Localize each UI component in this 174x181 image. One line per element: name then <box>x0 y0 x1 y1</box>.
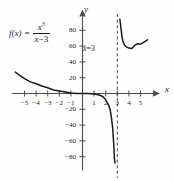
x-tick-label: −3 <box>44 100 51 107</box>
y-tick-label: 60 <box>58 43 76 50</box>
x-tick-label: 5 <box>139 100 143 107</box>
denominator-constant: 3 <box>44 34 49 44</box>
x-tick-label: 1 <box>92 100 96 107</box>
function-expression-label: f(x) = x3 x−3 <box>9 23 50 44</box>
function-graph-figure: f(x) = x3 x−3 y x x=3 −5−4−3−2−112345−80… <box>0 0 174 181</box>
y-tick-label: −80 <box>58 153 76 160</box>
x-tick-label: −4 <box>32 100 39 107</box>
equals-sign: = <box>24 29 31 38</box>
x-tick-label: 4 <box>127 100 131 107</box>
x-axis-label: x <box>165 85 169 94</box>
fraction-denominator: x−3 <box>33 33 51 44</box>
function-name: f(x) <box>9 29 22 38</box>
fraction-numerator: x3 <box>36 23 47 33</box>
numerator-exponent: 3 <box>42 21 45 27</box>
y-tick-label: −40 <box>58 122 76 129</box>
y-tick-label: 80 <box>58 27 76 34</box>
x-axis-arrowhead <box>153 90 160 96</box>
asymptote-annotation: x=3 <box>83 45 95 53</box>
asymptote-value: 3 <box>91 44 95 53</box>
fraction: x3 x−3 <box>33 23 51 44</box>
curve-branch-right <box>120 19 148 48</box>
y-tick-label: −60 <box>58 137 76 144</box>
x-tick-label: 3 <box>116 100 120 107</box>
x-tick-label: 2 <box>104 100 108 107</box>
y-axis-label: y <box>84 5 88 14</box>
curve-branch-left <box>15 72 115 163</box>
y-tick-label: −20 <box>58 106 76 113</box>
x-tick-label: −5 <box>21 100 28 107</box>
y-tick-label: 40 <box>58 58 76 65</box>
y-tick-label: 20 <box>58 74 76 81</box>
